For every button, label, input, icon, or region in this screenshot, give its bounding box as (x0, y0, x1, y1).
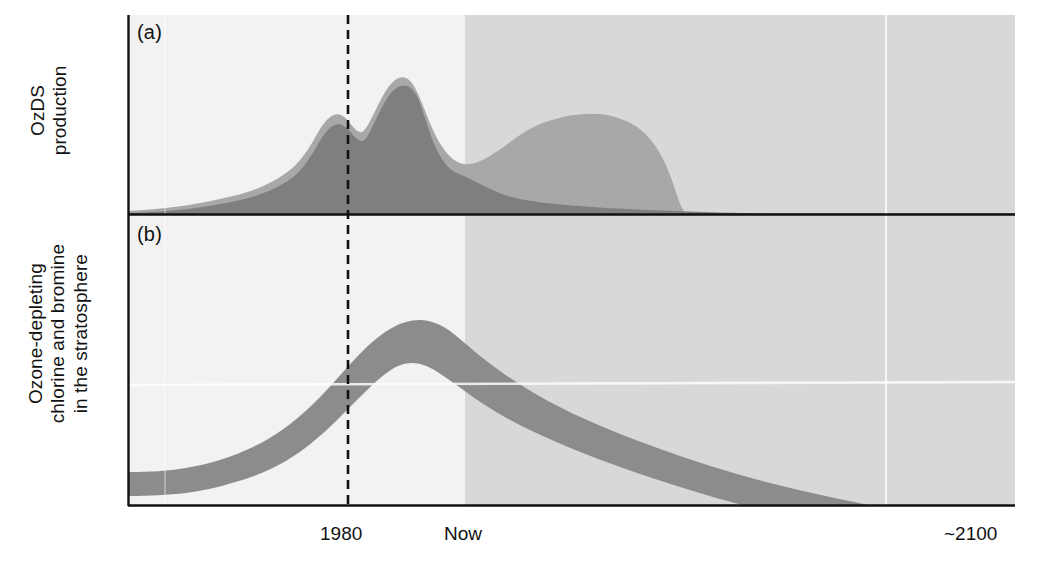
panel-a-y-axis-label-line-1: OzDS (27, 25, 49, 195)
panel-b-tag: (b) (137, 223, 162, 246)
panel-b-y-axis-label-line-2: chlorine and bromine (48, 214, 70, 454)
x-axis-tick-now: Now (444, 523, 482, 545)
panel-b-y-axis-label-line-1: Ozone-depleting (25, 214, 47, 454)
x-axis-tick-1980: 1980 (320, 523, 362, 545)
panel-b-y-axis-label: Ozone-depleting chlorine and bromine in … (25, 214, 92, 454)
panel-b-y-axis-label-line-3: in the stratosphere (70, 214, 92, 454)
panel-a-y-axis-label-line-2: production (49, 25, 71, 195)
x-axis-tick-2100: ~2100 (944, 523, 997, 545)
panel-a-tag: (a) (137, 21, 162, 44)
panel-a-y-axis-label: OzDS production (27, 25, 72, 195)
figure-plot (0, 0, 1038, 569)
figure-container: (a) (b) OzDS production Ozone-depleting … (0, 0, 1038, 569)
